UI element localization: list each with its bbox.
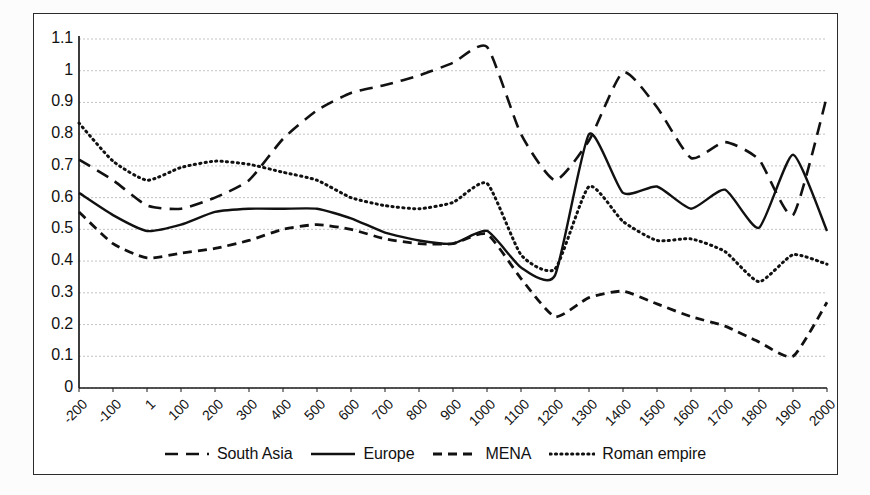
legend-label: Roman empire — [602, 445, 706, 463]
chart-frame: 00.10.20.30.40.50.60.70.80.911.1-200-100… — [33, 13, 838, 475]
legend-item[interactable]: MENA — [432, 445, 531, 463]
legend-item[interactable]: South Asia — [164, 445, 293, 463]
y-axis-tick-label: 0.5 — [33, 219, 73, 237]
legend-swatch-long-dash — [164, 448, 210, 460]
axes — [79, 36, 827, 392]
legend-swatch-solid — [310, 448, 356, 460]
legend-item[interactable]: Roman empire — [549, 445, 706, 463]
y-axis-tick-label: 1.1 — [33, 29, 73, 47]
y-axis-tick-label: 0.6 — [33, 188, 73, 206]
chart-figure: 00.10.20.30.40.50.60.70.80.911.1-200-100… — [0, 0, 870, 495]
series-line-mena — [79, 212, 827, 357]
y-axis-tick-label: 0.1 — [33, 346, 73, 364]
chart-legend: South AsiaEuropeMENARoman empire — [0, 437, 870, 471]
gridlines — [79, 39, 827, 388]
legend-swatch-short-dash — [432, 448, 478, 460]
y-axis-tick-label: 0.2 — [33, 315, 73, 333]
y-axis-tick-label: 0.3 — [33, 283, 73, 301]
legend-label: Europe — [363, 445, 414, 463]
y-axis-tick-label: 1 — [33, 61, 73, 79]
y-axis-tick-label: 0.4 — [33, 251, 73, 269]
y-axis-tick-label: 0 — [33, 378, 73, 396]
legend-item[interactable]: Europe — [310, 445, 414, 463]
y-axis-tick-label: 0.9 — [33, 92, 73, 110]
legend-label: MENA — [485, 445, 531, 463]
y-axis-tick-label: 0.7 — [33, 156, 73, 174]
series-group — [79, 45, 827, 356]
y-axis-tick-label: 0.8 — [33, 124, 73, 142]
legend-swatch-dotted — [549, 448, 595, 460]
legend-label: South Asia — [217, 445, 293, 463]
